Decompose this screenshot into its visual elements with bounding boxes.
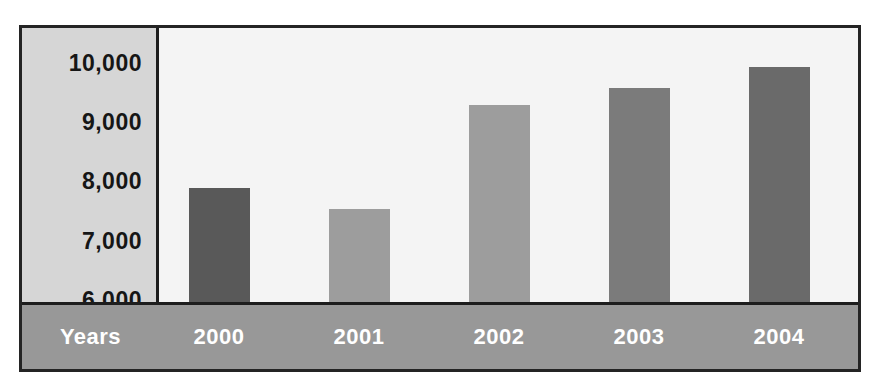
bar-chart: 10,000 9,000 8,000 7,000 6,000 Years 200… xyxy=(19,25,861,372)
x-axis-title: Years xyxy=(22,305,159,369)
chart-plot-region: 10,000 9,000 8,000 7,000 6,000 xyxy=(22,28,858,305)
x-axis-tick-2004: 2004 xyxy=(719,305,839,369)
plot-area xyxy=(159,28,858,305)
y-axis-tick-10000: 10,000 xyxy=(69,50,142,77)
y-axis-tick-9000: 9,000 xyxy=(82,109,142,136)
bar-2004 xyxy=(749,67,810,305)
bar-2003 xyxy=(609,88,670,305)
x-axis-tick-2003: 2003 xyxy=(579,305,699,369)
y-axis-panel: 10,000 9,000 8,000 7,000 6,000 xyxy=(22,28,159,305)
y-axis-tick-8000: 8,000 xyxy=(82,168,142,195)
bar-2000 xyxy=(189,188,250,305)
x-axis-tick-2000: 2000 xyxy=(159,305,279,369)
y-axis-tick-7000: 7,000 xyxy=(82,228,142,255)
x-axis-tick-2002: 2002 xyxy=(439,305,559,369)
bar-2001 xyxy=(329,209,390,305)
bar-2002 xyxy=(469,105,530,305)
x-axis-tick-2001: 2001 xyxy=(299,305,419,369)
x-axis-band: Years 2000 2001 2002 2003 2004 xyxy=(22,302,858,369)
